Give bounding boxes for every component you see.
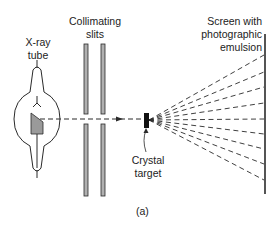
collimating-slits: [84, 44, 105, 196]
label-screen: Screen with photographic emulsion: [190, 15, 262, 54]
label-xray-tube: X-ray tube: [20, 36, 56, 62]
diffracted-ray: [149, 120, 264, 149]
label-line: tube: [20, 49, 56, 62]
beam-arrow-icon: [116, 117, 123, 122]
label-crystal-target: Crystal target: [128, 154, 168, 180]
label-line: emulsion: [190, 41, 262, 54]
crystal-target: [144, 113, 149, 128]
label-line: photographic: [190, 28, 262, 41]
label-line: Collimating: [60, 15, 130, 28]
figure-caption: (a): [136, 205, 149, 218]
diffracted-ray: [149, 119, 264, 120]
label-line: slits: [60, 28, 130, 41]
diffracted-ray: [149, 55, 264, 120]
pointer-arrow-icon: [144, 128, 149, 133]
label-line: target: [128, 167, 168, 180]
anode-target: [31, 113, 43, 134]
label-line: Crystal: [128, 154, 168, 167]
diffracted-ray: [149, 103, 264, 120]
diffracted-ray: [149, 87, 264, 120]
label-collimating-slits: Collimating slits: [60, 15, 130, 41]
label-line: Screen with: [190, 15, 262, 28]
crystal-pointer: [144, 130, 146, 152]
label-line: X-ray: [20, 36, 56, 49]
diffracted-ray: [149, 72, 264, 120]
